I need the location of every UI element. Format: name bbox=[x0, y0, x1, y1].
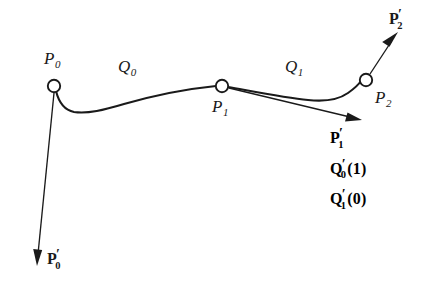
label-p1-prime-subscript: 1 bbox=[338, 139, 343, 150]
label-p0-prime: P′0 bbox=[47, 248, 62, 271]
tangent-vector-p1-line bbox=[229, 88, 350, 117]
label-p1-base: P bbox=[212, 97, 222, 116]
label-p0-subscript: 0 bbox=[55, 58, 61, 70]
spline-continuity-figure: P0 Q0 P1 Q1 P2 P′2 P′0 P′1 Q′0(1) Q′1(0) bbox=[0, 0, 429, 286]
label-p2-subscript: 2 bbox=[386, 97, 392, 109]
derivative-label-block: P′1 Q′0(1) Q′1(0) bbox=[330, 126, 367, 218]
curve-segment-q0 bbox=[56, 86, 216, 113]
control-point-marker-p0[interactable] bbox=[48, 80, 60, 92]
label-q1-base: Q bbox=[285, 57, 297, 76]
label-p2-prime-subscript: 2 bbox=[397, 20, 402, 31]
label-p0-base: P bbox=[44, 49, 54, 68]
label-q1-prime-argument: (0) bbox=[347, 191, 366, 208]
tangent-vector-p0-arrowhead bbox=[33, 249, 42, 266]
label-p2-prime: P′2 bbox=[389, 8, 404, 31]
label-q1-subscript: 1 bbox=[298, 66, 304, 78]
control-point-marker-p1[interactable] bbox=[216, 80, 228, 92]
label-q1: Q1 bbox=[285, 58, 303, 78]
label-q0-prime-subscript: 0 bbox=[341, 169, 346, 180]
label-p0: P0 bbox=[44, 50, 60, 70]
tangent-vector-p2-line bbox=[370, 42, 391, 74]
tangent-vector-p1-arrowhead bbox=[345, 113, 362, 122]
label-q0-prime-at-one: Q′0(1) bbox=[330, 157, 367, 181]
label-p1-prime: P′1 bbox=[330, 126, 367, 150]
label-p2-base: P bbox=[375, 88, 385, 107]
control-point-marker-p2[interactable] bbox=[360, 74, 372, 86]
tangent-vector-p0-line bbox=[38, 93, 54, 254]
label-q0: Q0 bbox=[118, 58, 136, 78]
label-q1-prime-at-zero: Q′1(0) bbox=[330, 187, 367, 211]
label-p1-subscript: 1 bbox=[223, 106, 229, 118]
curve-segment-q1 bbox=[228, 81, 361, 101]
label-q0-base: Q bbox=[118, 57, 130, 76]
label-q0-prime-argument: (1) bbox=[347, 160, 366, 177]
label-p2: P2 bbox=[375, 89, 391, 109]
label-q0-subscript: 0 bbox=[131, 66, 137, 78]
label-p1: P1 bbox=[212, 98, 228, 118]
label-q1-prime-subscript: 1 bbox=[341, 200, 346, 211]
label-p0-prime-subscript: 0 bbox=[55, 260, 60, 271]
tangent-vector-p2-arrowhead bbox=[382, 32, 398, 47]
